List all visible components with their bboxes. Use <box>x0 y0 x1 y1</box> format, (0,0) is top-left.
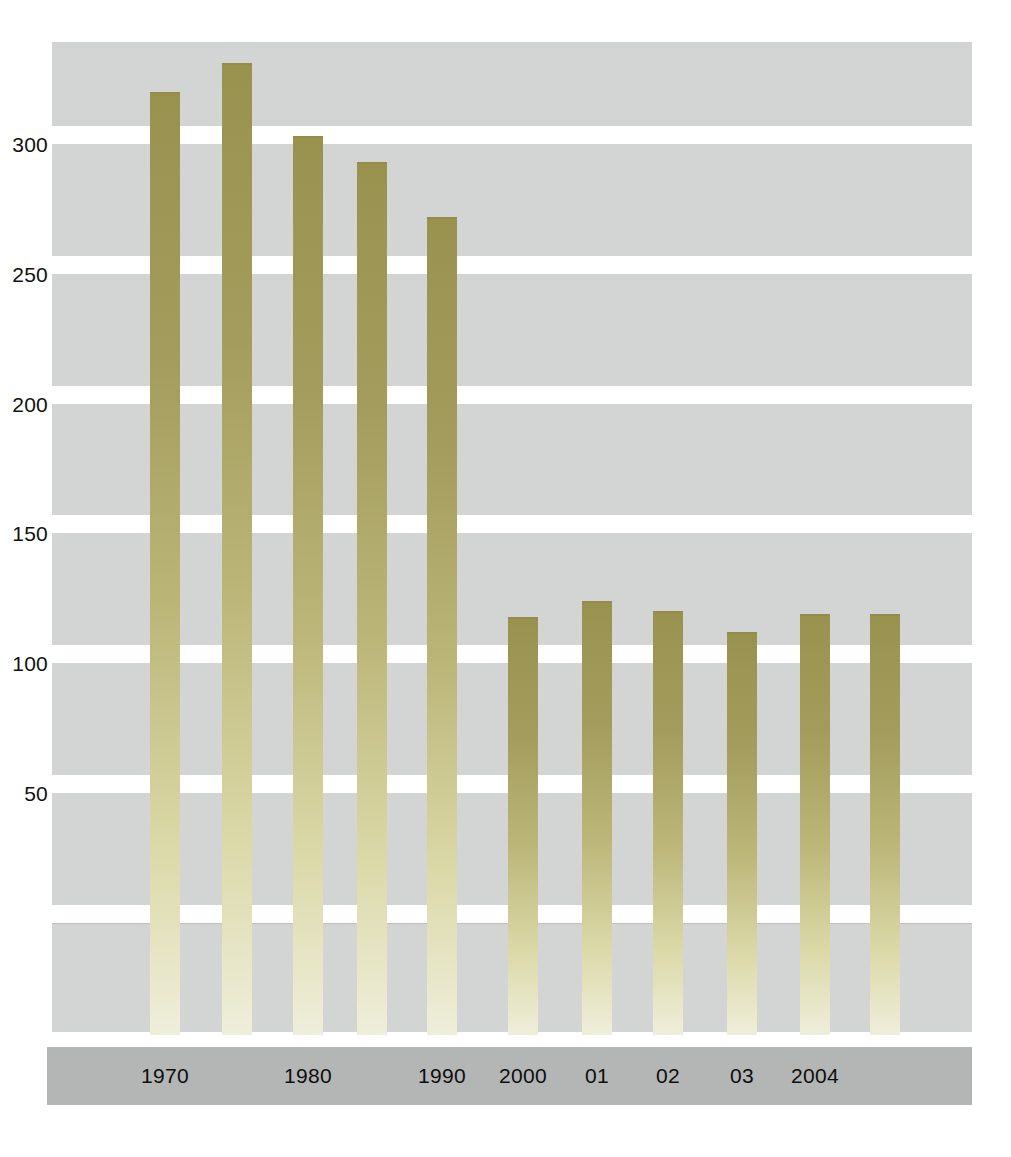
bar <box>222 63 252 1035</box>
x-axis-tick-label: 1980 <box>284 1064 332 1088</box>
bar-cap <box>222 63 252 65</box>
bar-chart: 50100150200250300 1970198019902000010203… <box>0 0 1011 1157</box>
bar <box>293 136 323 1035</box>
bar-cap <box>508 617 538 619</box>
bar-cap <box>870 614 900 616</box>
bar-cap <box>582 601 612 603</box>
bars-layer <box>0 0 1011 1157</box>
x-axis-tick-label: 1990 <box>418 1064 466 1088</box>
bar <box>508 617 538 1035</box>
x-axis-tick-label: 01 <box>585 1064 609 1088</box>
bar <box>150 92 180 1035</box>
x-axis-tick-label: 02 <box>656 1064 680 1088</box>
x-axis: 19701980199020000102032004 <box>47 1047 972 1105</box>
bar-cap <box>150 92 180 94</box>
bar-cap <box>727 632 757 634</box>
x-axis-tick-label: 2000 <box>499 1064 547 1088</box>
bar-cap <box>427 217 457 219</box>
bar <box>653 611 683 1035</box>
bar <box>727 632 757 1035</box>
bar-cap <box>653 611 683 613</box>
bar-cap <box>357 162 387 164</box>
bar-cap <box>800 614 830 616</box>
bar <box>582 601 612 1035</box>
bar <box>870 614 900 1035</box>
x-axis-tick-label: 2004 <box>791 1064 839 1088</box>
x-axis-tick-label: 1970 <box>141 1064 189 1088</box>
bar <box>357 162 387 1035</box>
bar <box>800 614 830 1035</box>
bar <box>427 217 457 1035</box>
x-axis-tick-label: 03 <box>730 1064 754 1088</box>
bar-cap <box>293 136 323 138</box>
